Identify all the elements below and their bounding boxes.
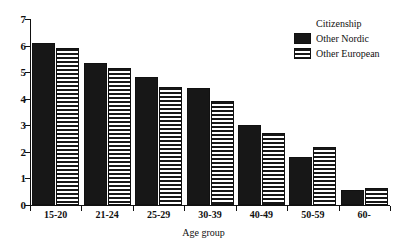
legend-swatch-striped-icon <box>294 48 311 59</box>
bar-other-european-15-20 <box>56 48 79 205</box>
x-axis-title: Age group <box>0 227 407 238</box>
bar-group-25-29 <box>135 19 182 205</box>
bar-other-european-30-39 <box>211 101 234 205</box>
legend-label-other-nordic: Other Nordic <box>316 33 369 44</box>
bar-other-nordic-30-39 <box>187 88 210 205</box>
bar-group-40-49 <box>238 19 285 205</box>
bar-group-21-24 <box>84 19 131 205</box>
y-tick-label: 1 <box>21 173 27 184</box>
legend-title: Citizenship <box>316 18 406 29</box>
y-tick-label: 0 <box>21 200 27 211</box>
bar-group-15-20 <box>32 19 79 205</box>
y-tick-label: 6 <box>21 40 27 51</box>
bar-group-30-39 <box>187 19 234 205</box>
bar-other-nordic-40-49 <box>238 125 261 205</box>
clipped-title-text <box>14 0 174 6</box>
legend-label-other-european: Other European <box>316 48 380 59</box>
legend-swatch-solid-icon <box>294 33 311 44</box>
y-tick-label: 5 <box>21 67 27 78</box>
legend-item-other-nordic: Other Nordic <box>294 33 406 44</box>
bar-other-nordic-15-20 <box>32 43 55 205</box>
bar-other-european-21-24 <box>108 68 131 205</box>
bar-other-european-25-29 <box>159 87 182 205</box>
x-axis-line <box>30 205 390 206</box>
bar-other-nordic-25-29 <box>135 77 158 205</box>
bar-other-european-40-49 <box>262 133 285 205</box>
x-category-label-25-29: 25-29 <box>133 209 184 220</box>
x-category-label-40-49: 40-49 <box>236 209 287 220</box>
x-category-label-21-24: 21-24 <box>81 209 132 220</box>
bar-other-nordic-21-24 <box>84 63 107 205</box>
x-tick-mark <box>390 206 391 211</box>
y-tick-label: 4 <box>21 93 27 104</box>
x-category-label-30-39: 30-39 <box>184 209 235 220</box>
x-tick-mark <box>30 206 31 211</box>
y-tick-label: 2 <box>21 146 27 157</box>
y-tick-label: 3 <box>21 120 27 131</box>
legend-item-other-european: Other European <box>294 48 406 59</box>
bar-other-european-50-59 <box>313 147 336 205</box>
y-tick-label: 7 <box>21 14 27 25</box>
bar-other-nordic-50-59 <box>289 157 312 205</box>
bar-chart: 01234567 Age group Citizenship Other Nor… <box>0 0 407 245</box>
x-category-label-60-: 60- <box>339 209 390 220</box>
x-category-label-50-59: 50-59 <box>287 209 338 220</box>
bar-other-nordic-60- <box>341 190 364 205</box>
bar-other-european-60- <box>365 188 388 205</box>
legend: Citizenship Other Nordic Other European <box>294 18 406 63</box>
x-category-label-15-20: 15-20 <box>30 209 81 220</box>
